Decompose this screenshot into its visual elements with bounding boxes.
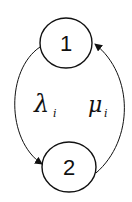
- node-1-label: 1: [60, 31, 72, 56]
- edge-label-mu: μ i: [88, 92, 108, 120]
- lambda-symbol: λ: [33, 90, 49, 118]
- edge-label-lambda: λ i: [33, 90, 57, 120]
- mu-symbol: μ: [88, 92, 102, 117]
- node-1: 1: [40, 18, 92, 68]
- mu-subscript: i: [104, 107, 108, 120]
- node-2: 2: [42, 142, 96, 192]
- state-diagram: 1 2 λ i μ i: [0, 0, 132, 202]
- lambda-subscript: i: [53, 107, 57, 120]
- node-2-label: 2: [63, 155, 75, 180]
